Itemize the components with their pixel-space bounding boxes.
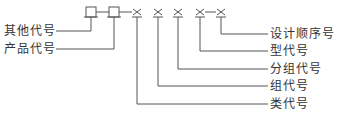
label-subgroup-code: 分组代号: [270, 62, 322, 76]
label-product-code: 产品代号: [4, 42, 56, 56]
label-other-code: 其他代号: [4, 24, 56, 38]
label-design-sequence: 设计顺序号: [270, 27, 335, 41]
box-symbol-other: [86, 7, 96, 17]
cross-symbol-design-seq: [216, 9, 226, 17]
box-symbol-product: [109, 7, 119, 17]
label-class-code: 类代号: [270, 97, 309, 111]
label-group-code: 组代号: [270, 79, 309, 93]
cross-symbol-class: [132, 9, 142, 17]
code-structure-diagram: 其他代号 产品代号 设计顺序号 型代号 分组代号 组代号 类代号: [0, 0, 342, 115]
cross-symbol-group: [153, 9, 163, 17]
cross-symbol-type: [195, 9, 205, 17]
label-type-code: 型代号: [270, 44, 309, 58]
cross-symbol-subgroup: [173, 9, 183, 17]
